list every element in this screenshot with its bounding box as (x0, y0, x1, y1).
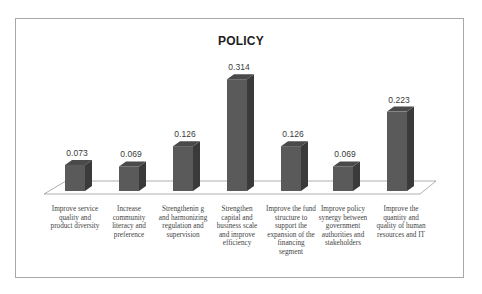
bar (227, 79, 247, 191)
bar-side (193, 141, 200, 191)
value-label: 0.126 (273, 129, 313, 139)
value-label: 0.069 (325, 149, 365, 159)
category-label: Strengthen capital and business scale an… (212, 205, 262, 248)
category-label: Improve service quality and product dive… (50, 205, 100, 231)
value-label: 0.073 (57, 148, 97, 158)
bar (65, 165, 85, 191)
value-label: 0.314 (219, 62, 259, 72)
bar-side (139, 161, 146, 191)
value-label: 0.069 (111, 149, 151, 159)
value-label: 0.223 (379, 95, 419, 105)
chart-plot-area (0, 0, 482, 294)
bar-side (247, 74, 254, 191)
bar-side (85, 160, 92, 191)
bar-side (301, 141, 308, 191)
category-label: Improve policy synergy between governmen… (318, 205, 368, 248)
category-label: Improve the quantity and quality of huma… (376, 205, 426, 239)
category-label: Strengthenin g and harmonizing regulatio… (158, 205, 208, 239)
bar-series (65, 74, 414, 191)
bar-side (353, 161, 360, 191)
bar (119, 166, 139, 191)
bar (387, 112, 407, 191)
bar (281, 146, 301, 191)
value-label: 0.126 (165, 129, 205, 139)
bar (173, 146, 193, 191)
bar-side (407, 107, 414, 191)
category-label: Improve the fund structure to support th… (266, 205, 316, 257)
bar (333, 166, 353, 191)
category-label: Increase community literacy and preferen… (104, 205, 154, 239)
